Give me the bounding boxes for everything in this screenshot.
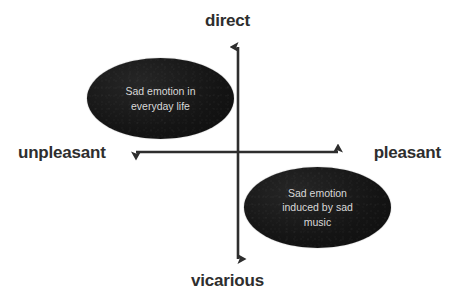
node-sad-emotion-everyday-life: Sad emotion in everyday life [87, 58, 234, 139]
node-label: Sad emotion in everyday life [111, 84, 209, 112]
node-label-line-2: induced by sad [282, 201, 353, 213]
node-label-line-3: music [304, 216, 331, 228]
node-label-line-1: Sad emotion in [125, 85, 195, 97]
node-label-line-1: Sad emotion [288, 187, 347, 199]
node-sad-emotion-induced-by-sad-music: Sad emotion induced by sad music [244, 167, 391, 248]
axes-group [0, 0, 455, 305]
diagram-canvas: direct vicarious unpleasant pleasant Sad… [0, 0, 455, 305]
node-label-line-2: everyday life [131, 100, 190, 112]
node-label: Sad emotion induced by sad music [268, 186, 367, 229]
